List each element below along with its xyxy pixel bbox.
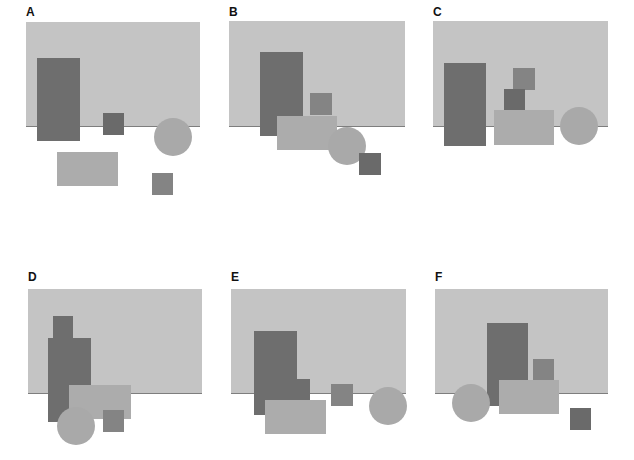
- small-square: [513, 68, 535, 90]
- circle: [369, 387, 407, 425]
- small-square: [103, 113, 124, 135]
- panel-label-c: C: [433, 5, 442, 19]
- panel-label-f: F: [435, 270, 442, 284]
- circle: [154, 118, 192, 156]
- wide-light-rectangle: [499, 380, 559, 414]
- small-square: [533, 359, 554, 381]
- wide-light-rectangle: [494, 110, 554, 145]
- small-square: [310, 93, 332, 115]
- small-square: [152, 173, 173, 195]
- circle: [57, 407, 95, 445]
- small-square: [103, 410, 124, 432]
- small-square: [570, 408, 591, 430]
- circle: [560, 107, 598, 145]
- wide-light-rectangle: [265, 400, 326, 434]
- small-square: [504, 89, 525, 111]
- small-square: [331, 384, 353, 406]
- panel-label-d: D: [28, 270, 37, 284]
- panel-label-e: E: [231, 270, 239, 284]
- panel-label-a: A: [26, 5, 35, 19]
- dark-rectangle-top: [53, 316, 73, 340]
- circle: [452, 384, 490, 422]
- panel-label-b: B: [229, 5, 238, 19]
- wide-light-rectangle: [57, 152, 118, 186]
- tall-dark-rectangle: [444, 63, 486, 146]
- tall-dark-rectangle: [37, 58, 80, 141]
- small-square: [359, 153, 381, 175]
